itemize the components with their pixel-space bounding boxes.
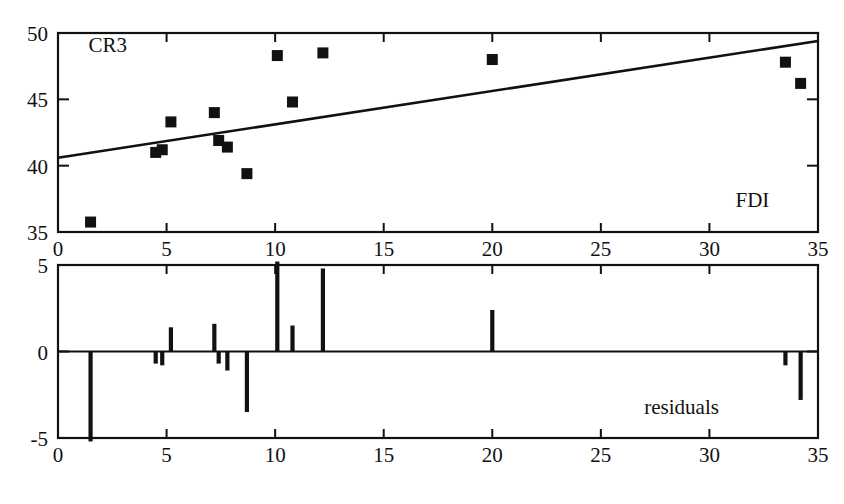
top-xticklabel-0: 0 <box>53 237 64 261</box>
bottom-yticklabel-0: 0 <box>38 341 49 365</box>
bottom-yticklabel--5: -5 <box>31 427 49 451</box>
data-point-marker <box>487 54 498 65</box>
bottom-yticklabel-5: 5 <box>38 254 49 278</box>
bottom-xticklabel-5: 5 <box>161 443 172 467</box>
top-yticklabel-35: 35 <box>27 221 48 245</box>
top-xticklabel-35: 35 <box>808 237 829 261</box>
top-xticklabel-10: 10 <box>265 237 286 261</box>
top-annotation-fdi: FDI <box>735 188 769 212</box>
bottom-xticklabel-30: 30 <box>699 443 720 467</box>
data-point-marker <box>222 142 233 153</box>
data-point-marker <box>209 107 220 118</box>
top-xticklabel-30: 30 <box>699 237 720 261</box>
data-point-marker <box>795 78 806 89</box>
bottom-xticklabel-15: 15 <box>373 443 394 467</box>
bottom-xticklabel-20: 20 <box>482 443 503 467</box>
data-point-marker <box>780 57 791 68</box>
data-point-marker <box>287 96 298 107</box>
chart-canvas: 0510152025303535404550CR3FDI 05101520253… <box>0 0 844 504</box>
top-yticklabel-50: 50 <box>27 22 48 46</box>
top-xticklabel-5: 5 <box>161 237 172 261</box>
data-point-marker <box>241 168 252 179</box>
bottom-annotation-residuals: residuals <box>644 395 719 419</box>
data-point-marker <box>317 47 328 58</box>
bottom-xticklabel-10: 10 <box>265 443 286 467</box>
bottom-xticklabel-25: 25 <box>590 443 611 467</box>
top-xticklabel-25: 25 <box>590 237 611 261</box>
top-yticklabel-40: 40 <box>27 155 48 179</box>
top-xticklabel-15: 15 <box>373 237 394 261</box>
data-point-marker <box>165 116 176 127</box>
figure-container: 0510152025303535404550CR3FDI 05101520253… <box>0 0 844 504</box>
top-xticklabel-20: 20 <box>482 237 503 261</box>
data-point-marker <box>272 50 283 61</box>
bottom-xticklabel-0: 0 <box>53 443 64 467</box>
top-annotation-cr3: CR3 <box>88 33 127 57</box>
data-point-marker <box>85 217 96 228</box>
top-yticklabel-45: 45 <box>27 88 48 112</box>
bottom-xticklabel-35: 35 <box>808 443 829 467</box>
data-point-marker <box>157 144 168 155</box>
